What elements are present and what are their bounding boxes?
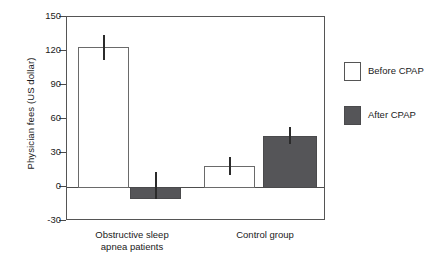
legend-swatch-before-cpap — [344, 62, 361, 81]
errorbar-before-cpap-osa — [103, 35, 105, 60]
errorbar-after-cpap-osa — [155, 172, 157, 199]
x-axis-label-group-2: Control group — [200, 229, 330, 241]
errorbar-before-cpap-control — [229, 157, 231, 175]
y-tick-label: 90 — [21, 78, 61, 89]
x-axis-label-group-1: Obstructive sleep apnea patients — [62, 229, 202, 253]
errorbar-after-cpap-control — [289, 127, 291, 144]
legend-swatch-after-cpap — [344, 106, 361, 125]
plot-area — [66, 16, 325, 220]
bar-before-cpap-osa — [78, 47, 129, 188]
y-tick-label: 0 — [21, 180, 61, 191]
legend: Before CPAP After CPAP — [344, 62, 434, 150]
y-tick-label: 120 — [21, 44, 61, 55]
legend-item-after-cpap: After CPAP — [344, 106, 434, 128]
y-tick-label: 30 — [21, 146, 61, 157]
legend-label-before-cpap: Before CPAP — [368, 65, 424, 76]
chart-figure: Physician fees (US dollar) 150 120 90 60… — [0, 0, 435, 267]
y-tick-label: 60 — [21, 112, 61, 123]
legend-item-before-cpap: Before CPAP — [344, 62, 434, 84]
y-tick-label: 150 — [21, 10, 61, 21]
y-tick-label: -30 — [21, 214, 61, 225]
legend-label-after-cpap: After CPAP — [368, 109, 416, 120]
